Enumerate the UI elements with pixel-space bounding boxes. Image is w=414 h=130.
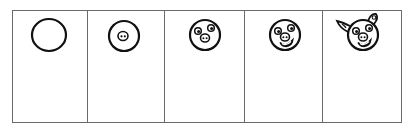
snout-icon (118, 32, 128, 41)
head-with-snout-drawing (88, 11, 166, 123)
step-panel-1: Step 1 (13, 11, 88, 122)
step-panel-4: Step 4 (245, 11, 324, 122)
drawing-steps-strip: Step 1 Step 2 Step 3 Step 4 (12, 10, 402, 123)
step-panel-3: Step 3 (165, 11, 245, 122)
step-panel-5: Step 5 (323, 11, 401, 122)
nostril-right (123, 35, 125, 37)
snout-icon (201, 34, 210, 42)
head-with-mouth-drawing (245, 11, 324, 123)
complete-pig-drawing (323, 11, 401, 123)
nostril-left (120, 35, 122, 37)
step-panel-2: Step 2 (88, 11, 166, 122)
head-circle-drawing (13, 11, 88, 123)
head-with-eyes-drawing (165, 11, 245, 123)
